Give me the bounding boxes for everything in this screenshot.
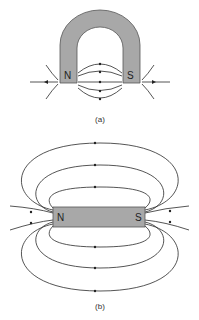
figure-a: N S (a)	[30, 10, 170, 124]
figure-b: N S (b)	[10, 142, 189, 311]
caption-b: (b)	[95, 302, 105, 311]
magnetic-field-diagram: N S (a)	[0, 0, 199, 320]
south-pole-label-b: S	[135, 212, 142, 223]
field-lines-gap	[78, 63, 122, 100]
north-pole-label-b: N	[57, 212, 64, 223]
north-pole-label-a: N	[64, 70, 71, 81]
caption-a: (a)	[95, 115, 105, 124]
bar-magnet	[53, 207, 145, 227]
south-pole-label-a: S	[127, 70, 134, 81]
